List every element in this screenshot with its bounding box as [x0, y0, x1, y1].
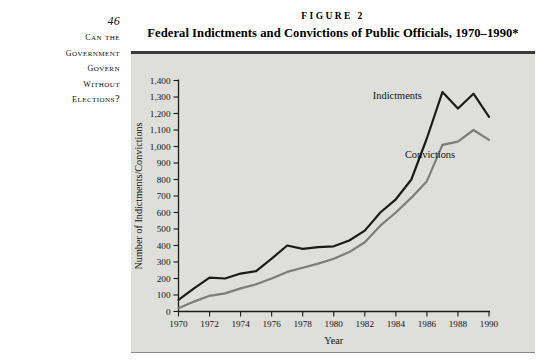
chart-series-group [179, 92, 490, 308]
y-tick-label: 500 [157, 224, 171, 234]
x-tick-label: 1970 [169, 319, 188, 329]
x-tick-label: 1982 [356, 319, 375, 329]
y-tick-label: 600 [157, 208, 171, 218]
y-tick-label: 700 [157, 191, 171, 201]
y-tick-label: 1,300 [150, 92, 171, 102]
x-tick-label: 1990 [480, 319, 499, 329]
x-tick-label: 1988 [449, 319, 468, 329]
y-tick-label: 300 [157, 257, 171, 267]
x-axis-title: Year [324, 335, 343, 346]
x-tick-label: 1974 [231, 319, 250, 329]
y-tick-label: 900 [157, 158, 171, 168]
x-tick-label: 1984 [387, 319, 406, 329]
x-axis-ticks: 1970197219741976197819801982198419861988… [169, 312, 498, 330]
series-label: Indictments [373, 90, 422, 101]
x-tick-label: 1976 [262, 319, 281, 329]
y-tick-label: 1,100 [150, 125, 171, 135]
series-label: Convictions [405, 149, 455, 160]
y-axis-title: Number of Indictments/Convictions [133, 122, 144, 269]
y-tick-label: 1,000 [150, 142, 171, 152]
y-tick-label: 1,200 [150, 109, 171, 119]
series-annotations: IndictmentsConvictions [373, 90, 455, 160]
x-tick-label: 1972 [200, 319, 219, 329]
series-line-indictments [179, 92, 490, 300]
y-axis-ticks: 01002003004005006007008009001,0001,1001,… [150, 76, 179, 317]
y-tick-label: 400 [157, 241, 171, 251]
x-tick-label: 1978 [294, 319, 313, 329]
line-chart: 01002003004005006007008009001,0001,1001,… [0, 0, 543, 361]
y-tick-label: 800 [157, 175, 171, 185]
x-tick-label: 1986 [418, 319, 437, 329]
y-tick-label: 100 [157, 290, 171, 300]
y-tick-label: 1,400 [150, 76, 171, 86]
y-tick-label: 0 [166, 307, 171, 317]
x-tick-label: 1980 [325, 319, 344, 329]
y-tick-label: 200 [157, 274, 171, 284]
